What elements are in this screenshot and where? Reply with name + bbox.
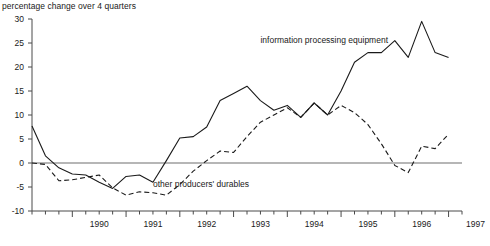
x-tick-label: 1995 xyxy=(348,219,388,229)
chart-series-group xyxy=(32,21,449,195)
x-tick-label: 1996 xyxy=(402,219,442,229)
y-tick-label: 20 xyxy=(2,62,24,72)
x-tick-label: 1992 xyxy=(187,219,227,229)
x-tick-label: 1990 xyxy=(79,219,119,229)
y-tick-label: 15 xyxy=(2,86,24,96)
series-annotation: information processing equipment xyxy=(260,35,388,45)
y-tick-label: -5 xyxy=(2,182,24,192)
x-tick-label: 1997 xyxy=(455,219,490,229)
y-tick-label: 10 xyxy=(2,110,24,120)
y-tick-label: 30 xyxy=(2,14,24,24)
y-tick-label: 0 xyxy=(2,158,24,168)
x-tick-label: 1991 xyxy=(133,219,173,229)
y-tick-label: -10 xyxy=(2,206,24,216)
x-tick-label: 1993 xyxy=(240,219,280,229)
x-tick-label: 1994 xyxy=(294,219,334,229)
series-annotation: other producers' durables xyxy=(153,179,249,189)
y-tick-label: 5 xyxy=(2,134,24,144)
y-tick-label: 25 xyxy=(2,38,24,48)
